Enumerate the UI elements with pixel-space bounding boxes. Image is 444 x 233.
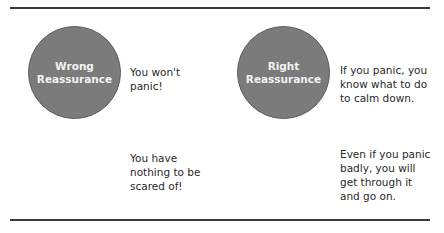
- wrong-statement-1: You won't panic!: [130, 65, 210, 93]
- wrong-reassurance-circle: Wrong Reassurance: [28, 26, 121, 119]
- right-reassurance-label: Right Reassurance: [246, 60, 321, 86]
- right-title-line1: Right: [246, 60, 321, 73]
- wrong-title-line1: Wrong: [37, 60, 112, 73]
- right-statement-1: If you panic, you know what to do to cal…: [340, 63, 435, 105]
- right-reassurance-circle: Right Reassurance: [237, 26, 330, 119]
- wrong-statement-2: You have nothing to be scared of!: [130, 151, 210, 193]
- top-divider: [10, 7, 430, 9]
- wrong-title-line2: Reassurance: [37, 73, 112, 86]
- wrong-reassurance-label: Wrong Reassurance: [37, 60, 112, 86]
- bottom-divider: [10, 219, 430, 221]
- right-title-line2: Reassurance: [246, 73, 321, 86]
- right-statement-2: Even if you panic badly, you will get th…: [340, 147, 435, 203]
